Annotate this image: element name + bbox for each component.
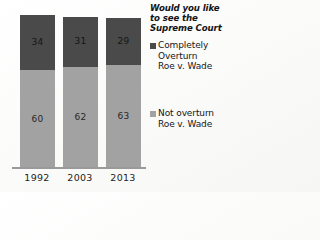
bar-segment-not-overturn-2013[interactable]: 63: [106, 65, 141, 168]
bar-segment-overturn-2003[interactable]: 31: [63, 17, 98, 67]
legend-label-line-3: Roe v. Wade: [158, 61, 212, 72]
legend-label-line-2: Roe v. Wade: [158, 119, 214, 130]
legend-label-line-2: Overturn: [158, 51, 212, 62]
bar-segment-overturn-1992[interactable]: 34: [20, 15, 55, 70]
bar-value-label: 31: [75, 37, 87, 46]
bar-column-1992[interactable]: 34 60: [20, 15, 55, 168]
bar-segment-overturn-2013[interactable]: 29: [106, 18, 141, 65]
x-axis-tick-2003: 2003: [60, 172, 100, 183]
legend-label-overturn: Completely Overturn Roe v. Wade: [158, 40, 212, 72]
bar-column-2003[interactable]: 31 62: [63, 17, 98, 168]
stacked-bar-chart: 34 60 31 62 29 6: [0, 0, 232, 192]
legend-swatch-icon: [150, 43, 156, 49]
x-axis-tick-2013: 2013: [103, 172, 143, 183]
legend-label-not-overturn: Not overturn Roe v. Wade: [158, 108, 214, 129]
bar-group: 34 60 31 62 29 6: [0, 0, 146, 168]
bar-value-label: 29: [118, 37, 130, 46]
legend-label-line-1: Completely: [158, 40, 212, 51]
legend-swatch-icon: [150, 111, 156, 117]
chart-title: Would you like to see the Supreme Court: [150, 3, 232, 34]
bar-value-label: 62: [75, 113, 87, 122]
bar-value-label: 60: [32, 115, 44, 124]
x-axis-labels: 1992 2003 2013: [0, 172, 146, 190]
chart-title-line-1: Would you like: [150, 3, 232, 13]
plot-area: 34 60 31 62 29 6: [0, 0, 146, 192]
bar-value-label: 63: [118, 112, 130, 121]
chart-title-line-2: to see the: [150, 13, 232, 23]
legend-item-not-overturn[interactable]: Not overturn Roe v. Wade: [150, 108, 232, 129]
bar-segment-not-overturn-1992[interactable]: 60: [20, 70, 55, 168]
legend-label-line-1: Not overturn: [158, 108, 214, 119]
legend-panel: Would you like to see the Supreme Court …: [148, 0, 232, 192]
legend-item-overturn[interactable]: Completely Overturn Roe v. Wade: [150, 40, 232, 72]
bar-segment-not-overturn-2003[interactable]: 62: [63, 67, 98, 168]
bar-column-2013[interactable]: 29 63: [106, 18, 141, 168]
chart-title-line-3: Supreme Court: [150, 23, 232, 33]
x-axis-line: [12, 167, 146, 169]
x-axis-tick-1992: 1992: [17, 172, 57, 183]
bar-value-label: 34: [32, 38, 44, 47]
